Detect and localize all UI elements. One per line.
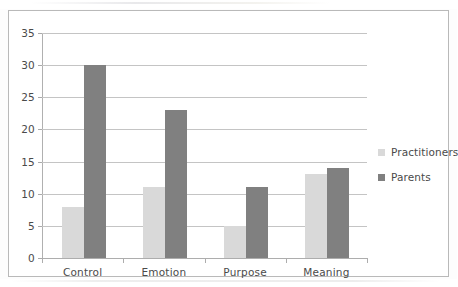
y-tick-mark	[38, 226, 42, 227]
legend-label: Parents	[391, 171, 431, 183]
plot-area: 05101520253035	[42, 33, 367, 258]
legend-item-parents[interactable]: Parents	[378, 171, 458, 183]
y-axis-tick-label: 15	[21, 156, 35, 168]
y-tick-mark	[38, 33, 42, 34]
y-tick-mark	[38, 129, 42, 130]
bars-layer	[43, 33, 367, 258]
bar-meaning-practitioners	[305, 174, 327, 258]
y-axis-tick-label: 25	[21, 91, 35, 103]
bar-purpose-parents	[246, 187, 268, 258]
x-tick-mark	[205, 258, 206, 263]
scan-artifact-bottom	[0, 279, 457, 287]
bar-group-control	[62, 33, 106, 258]
x-axis-label-control: Control	[63, 266, 102, 278]
legend-swatch-icon	[378, 174, 385, 181]
chart-legend: PractitionersParents	[378, 146, 458, 196]
y-tick-mark	[38, 97, 42, 98]
bar-control-parents	[84, 65, 106, 258]
y-tick-mark	[38, 194, 42, 195]
y-axis-tick-label: 5	[28, 220, 35, 232]
x-tick-mark	[42, 258, 43, 263]
bar-control-practitioners	[62, 207, 84, 258]
y-axis-tick-label: 30	[21, 59, 35, 71]
x-axis-label-meaning: Meaning	[303, 266, 349, 278]
y-tick-mark	[38, 162, 42, 163]
y-axis-tick-label: 35	[21, 27, 35, 39]
bar-group-emotion	[143, 33, 187, 258]
bar-meaning-parents	[327, 168, 349, 258]
bar-emotion-practitioners	[143, 187, 165, 258]
legend-swatch-icon	[378, 149, 385, 156]
y-axis-tick-label: 10	[21, 188, 35, 200]
x-tick-mark	[367, 258, 368, 263]
legend-item-practitioners[interactable]: Practitioners	[378, 146, 458, 158]
bar-group-purpose	[224, 33, 268, 258]
x-tick-mark	[286, 258, 287, 263]
bar-purpose-practitioners	[224, 226, 246, 258]
scan-artifact-top	[0, 0, 457, 9]
y-axis-tick-label: 20	[21, 123, 35, 135]
y-axis-tick-label: 0	[28, 252, 35, 264]
x-axis-label-purpose: Purpose	[223, 266, 267, 278]
x-axis-label-emotion: Emotion	[141, 266, 186, 278]
chart-frame: 05101520253035 ControlEmotionPurposeMean…	[8, 10, 449, 277]
y-tick-mark	[38, 65, 42, 66]
legend-label: Practitioners	[391, 146, 458, 158]
bar-group-meaning	[305, 33, 349, 258]
bar-emotion-parents	[165, 110, 187, 258]
x-tick-mark	[123, 258, 124, 263]
